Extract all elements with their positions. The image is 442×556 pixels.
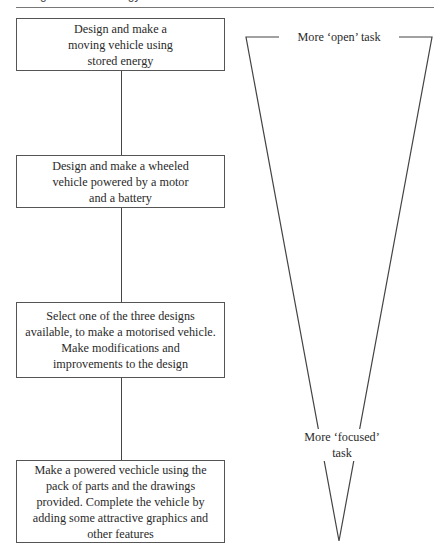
- focused-task-label-line1: More ‘focused’: [300, 429, 384, 445]
- open-to-focused-triangle: [0, 0, 442, 556]
- focused-task-label-line2: task: [300, 445, 384, 461]
- open-task-label: More ‘open’ task: [279, 29, 399, 45]
- focused-task-label: More ‘focused’ task: [296, 429, 388, 461]
- open-task-label-text: More ‘open’ task: [297, 30, 380, 44]
